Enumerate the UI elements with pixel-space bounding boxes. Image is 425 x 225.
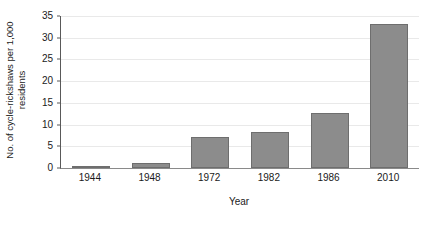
- bar-slot: [61, 16, 121, 168]
- y-axis-label-line-2: residents: [16, 21, 28, 158]
- y-axis-label: No. of cycle-rickshaws per 1,000 residen…: [0, 0, 32, 180]
- y-tick-label: 30: [42, 33, 53, 43]
- y-tick-label: 10: [42, 120, 53, 130]
- x-tick-label: 1982: [239, 172, 299, 184]
- x-axis-ticks: 194419481972198219862010: [60, 172, 418, 188]
- bar-chart-figure: No. of cycle-rickshaws per 1,000 residen…: [0, 0, 425, 225]
- x-tick-label: 1972: [179, 172, 239, 184]
- y-axis-ticks: 05101520253035: [32, 16, 57, 168]
- y-axis-label-line-1: No. of cycle-rickshaws per 1,000: [4, 21, 16, 158]
- y-tick-label: 35: [42, 11, 53, 21]
- bar: [132, 163, 170, 168]
- bar: [72, 166, 110, 168]
- x-axis-label: Year: [60, 196, 418, 208]
- x-tick-label: 1944: [60, 172, 120, 184]
- bar: [191, 137, 229, 168]
- bar: [370, 24, 408, 168]
- bar-slot: [121, 16, 181, 168]
- y-tick-label: 15: [42, 98, 53, 108]
- y-tick-label: 5: [47, 141, 53, 151]
- bar-slot: [180, 16, 240, 168]
- y-tick-label: 0: [47, 163, 53, 173]
- x-tick-label: 1948: [120, 172, 180, 184]
- bar: [311, 113, 349, 168]
- y-tick-label: 25: [42, 54, 53, 64]
- x-tick-label: 1986: [299, 172, 359, 184]
- plot-area: [60, 16, 419, 169]
- bar-series: [61, 16, 419, 168]
- bar-slot: [359, 16, 419, 168]
- bar-slot: [300, 16, 360, 168]
- y-tick-label: 20: [42, 76, 53, 86]
- bar-slot: [240, 16, 300, 168]
- bar: [251, 132, 289, 168]
- x-tick-label: 2010: [358, 172, 418, 184]
